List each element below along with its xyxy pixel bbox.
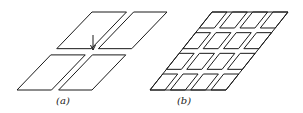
grid-cell-r4-c2 bbox=[170, 74, 198, 90]
plate-outline bbox=[150, 12, 288, 90]
diagram-figure: (a) (b) bbox=[0, 0, 303, 113]
panel-a-cross-slot-plate bbox=[17, 12, 167, 90]
grid-cell-r3-c3 bbox=[207, 53, 235, 69]
grid-cell-r3-c2 bbox=[187, 53, 215, 69]
grid-cell-r2-c2 bbox=[203, 33, 231, 49]
grid-cell-r2-c1 bbox=[183, 33, 211, 49]
grid-cell-r1-c1 bbox=[199, 12, 227, 28]
grid-cell-r3-c1 bbox=[166, 53, 194, 69]
grid-cell-r2-c3 bbox=[224, 33, 252, 49]
grid-cell-r1-c2 bbox=[220, 12, 248, 28]
grid-cell-r4-c4 bbox=[211, 74, 239, 90]
grid-cell-r1-c4 bbox=[260, 12, 288, 28]
grid-cell-r4-c3 bbox=[191, 74, 219, 90]
grid-cell-r1-c3 bbox=[240, 12, 268, 28]
grid-cell-r4-c1 bbox=[150, 74, 178, 90]
grid-cell-r3-c4 bbox=[227, 53, 255, 69]
panel-b-label: (b) bbox=[177, 95, 191, 106]
grid-cell-r2-c4 bbox=[244, 33, 272, 49]
panel-b-grid-plate bbox=[150, 12, 288, 90]
panel-a-label: (a) bbox=[56, 95, 70, 106]
